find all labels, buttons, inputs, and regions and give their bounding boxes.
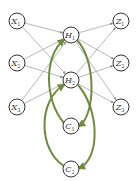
node-x1: X1 (9, 13, 25, 29)
edge-h2-z2 (79, 66, 113, 78)
edge-x3-h2 (24, 84, 63, 104)
loop-h2-to-c2 (78, 85, 95, 168)
node-h2: H2 (63, 72, 79, 88)
nodes-group: X1X2X3H1H2Z1Z2Z3C1C2 (9, 13, 129, 177)
node-c2: C2 (63, 161, 79, 177)
edge-h1-z1 (79, 23, 113, 33)
node-x3: X3 (9, 99, 25, 115)
loop-h1-to-c1 (77, 40, 92, 126)
edge-x2-h1 (24, 39, 63, 59)
loop-c2-to-h2 (45, 85, 65, 166)
node-z3: Z3 (113, 99, 129, 115)
node-h1: H1 (63, 27, 79, 43)
node-z1: Z1 (113, 13, 129, 29)
loop-c1-to-h1 (49, 40, 64, 123)
node-x2: X2 (9, 55, 25, 71)
node-z2: Z2 (113, 55, 129, 71)
diagram-canvas: X1X2X3H1H2Z1Z2Z3C1C2 (0, 0, 139, 181)
node-c1: C1 (63, 118, 79, 134)
edge-x1-h1 (25, 23, 63, 33)
context-loops (45, 40, 95, 168)
